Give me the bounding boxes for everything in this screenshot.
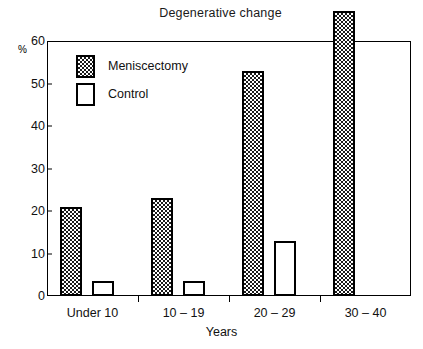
legend-swatch-control-icon: [76, 83, 95, 106]
legend-item-control: Control: [76, 80, 188, 108]
x-tick-label: 10 – 19: [163, 306, 205, 320]
x-tick-label: Under 10: [67, 306, 118, 320]
degenerative-change-bar-chart: Degenerative change % 0102030405060 Unde…: [0, 0, 423, 349]
x-tick-label: 20 – 29: [254, 306, 296, 320]
x-tick-mark: [229, 296, 230, 302]
y-tick-label: 10: [9, 247, 45, 261]
bar-control-0: [92, 281, 114, 296]
x-tick-label: 30 – 40: [345, 306, 387, 320]
x-tick-mark: [320, 296, 321, 302]
y-tick-label: 0: [9, 289, 45, 303]
legend-swatch-meniscectomy-icon: [76, 55, 95, 78]
legend-label-control: Control: [108, 87, 148, 101]
bar-meniscectomy-3: [333, 11, 355, 296]
bar-control-1: [183, 281, 205, 296]
legend-item-meniscectomy: Meniscectomy: [76, 52, 188, 80]
y-axis-ticks: 0102030405060: [0, 0, 45, 349]
legend-label-meniscectomy: Meniscectomy: [108, 59, 188, 73]
y-tick-mark: [47, 211, 52, 212]
y-tick-mark: [47, 126, 52, 127]
y-tick-mark: [47, 168, 52, 169]
y-tick-mark: [47, 253, 52, 254]
x-tick-mark: [138, 296, 139, 302]
y-tick-mark: [47, 83, 52, 84]
y-tick-label: 40: [9, 119, 45, 133]
y-tick-label: 30: [9, 162, 45, 176]
bar-control-2: [274, 241, 296, 296]
bar-meniscectomy-0: [60, 207, 82, 296]
x-axis-title: Years: [0, 325, 423, 339]
chart-legend: Meniscectomy Control: [76, 52, 188, 108]
chart-title: Degenerative change: [0, 6, 423, 20]
bar-meniscectomy-1: [151, 198, 173, 296]
y-tick-label: 20: [9, 204, 45, 218]
bar-meniscectomy-2: [242, 71, 264, 296]
y-tick-label: 60: [9, 34, 45, 48]
y-tick-label: 50: [9, 77, 45, 91]
